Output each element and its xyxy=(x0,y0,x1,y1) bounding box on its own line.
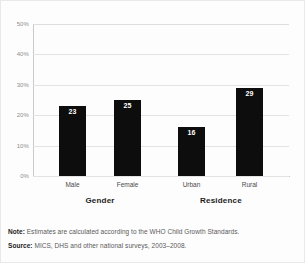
gridline-30: 30% xyxy=(33,85,289,86)
note-label: Note: xyxy=(8,228,25,235)
bar-value-urban: 16 xyxy=(178,129,205,136)
gridline-50: 50% xyxy=(33,24,289,25)
gridline-40: 40% xyxy=(33,54,289,55)
y-tick-label-0: 0% xyxy=(20,173,29,179)
bar-value-female: 25 xyxy=(114,102,141,109)
x-tick-label-male: Male xyxy=(65,181,79,188)
bar-value-male: 23 xyxy=(59,108,86,115)
plot-area: 50% 40% 30% 20% 10% 0% 23 25 xyxy=(33,24,289,176)
x-tick-label-female: Female xyxy=(117,181,139,188)
bar-rural: 29 xyxy=(236,88,263,176)
y-tick-label-50: 50% xyxy=(17,21,29,27)
group-label-residence: Residence xyxy=(200,196,242,205)
y-tick-label-20: 20% xyxy=(17,112,29,118)
source-text: MICS, DHS and other national surveys, 20… xyxy=(33,242,187,249)
y-tick-label-30: 30% xyxy=(17,82,29,88)
bar-male: 23 xyxy=(59,106,86,176)
bar-female: 25 xyxy=(114,100,141,176)
y-tick-label-40: 40% xyxy=(17,51,29,57)
bar-chart-figure: 50% 40% 30% 20% 10% 0% 23 25 xyxy=(1,1,305,216)
bar-urban: 16 xyxy=(178,127,205,176)
note-text: Estimates are calculated according to th… xyxy=(25,228,239,235)
bar-value-rural: 29 xyxy=(236,90,263,97)
y-tick-label-10: 10% xyxy=(17,143,29,149)
source-line: Source: MICS, DHS and other national sur… xyxy=(8,239,300,253)
x-tick-label-rural: Rural xyxy=(242,181,258,188)
note-line: Note: Estimates are calculated according… xyxy=(8,225,300,239)
gridline-0: 0% xyxy=(33,176,289,177)
chart-screenshot: 50% 40% 30% 20% 10% 0% 23 25 xyxy=(0,0,305,263)
source-label: Source: xyxy=(8,242,33,249)
x-tick-label-urban: Urban xyxy=(183,181,201,188)
group-label-gender: Gender xyxy=(85,196,114,205)
footnotes: Note: Estimates are calculated according… xyxy=(8,225,300,253)
